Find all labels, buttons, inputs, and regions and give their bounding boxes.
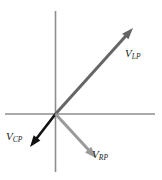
vector-vlp-label: VLP	[125, 44, 141, 60]
vector-vlp-shaft	[56, 35, 127, 114]
vector-diagram-canvas	[0, 0, 162, 180]
vector-vrp	[56, 114, 97, 158]
vector-vrp-label-base: V	[92, 148, 99, 160]
vector-vrp-label-subscript: RP	[99, 153, 108, 162]
vector-vcp-label: VCP	[6, 127, 23, 143]
vector-vrp-shaft	[56, 114, 90, 151]
vector-vcp-label-base: V	[6, 130, 13, 142]
vector-diagram: VLP VCP VRP	[0, 0, 162, 180]
vector-vlp-label-subscript: LP	[132, 52, 141, 61]
vector-vlp-label-base: V	[125, 47, 132, 59]
vector-vrp-label: VRP	[92, 145, 108, 161]
vector-vcp	[30, 114, 56, 147]
vector-vcp-shaft	[36, 114, 56, 140]
vector-vlp	[56, 28, 134, 114]
vector-vcp-label-subscript: CP	[13, 135, 23, 144]
